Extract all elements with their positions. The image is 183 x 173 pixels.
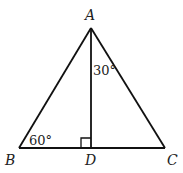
right-angle-marker xyxy=(81,138,91,148)
label-a: A xyxy=(83,7,95,23)
label-c: C xyxy=(167,152,178,168)
angle-a-label: 30° xyxy=(93,63,116,78)
segment-ac xyxy=(91,28,165,148)
label-d: D xyxy=(84,152,96,168)
segment-ab xyxy=(19,28,91,148)
angle-b-label: 60° xyxy=(29,133,52,148)
label-b: B xyxy=(4,152,15,168)
triangle-diagram: A B C D 30° 60° xyxy=(0,0,183,173)
